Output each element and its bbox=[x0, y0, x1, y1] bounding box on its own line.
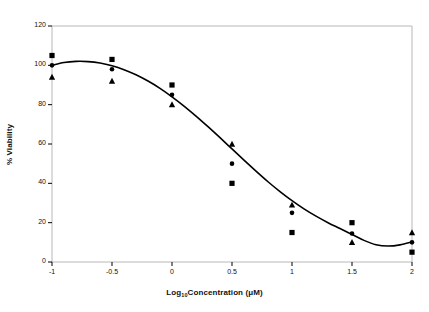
y-tick-label: 40 bbox=[24, 178, 46, 185]
y-tick-label: 20 bbox=[24, 218, 46, 225]
x-tick-label: -0.5 bbox=[99, 268, 125, 275]
marker-triangle bbox=[409, 229, 415, 235]
marker-circle bbox=[350, 231, 355, 236]
data-point-markers bbox=[49, 53, 415, 255]
marker-triangle bbox=[109, 78, 115, 84]
marker-circle bbox=[50, 63, 55, 68]
marker-square bbox=[229, 181, 234, 186]
y-axis-title: % Viability bbox=[5, 115, 14, 175]
chart-figure: 020406080100120 -1-0.500.511.52 Log10Con… bbox=[0, 0, 429, 312]
marker-circle bbox=[290, 211, 295, 216]
marker-circle bbox=[410, 240, 415, 245]
x-tick-label: 2 bbox=[399, 268, 425, 275]
y-tick-label: 0 bbox=[24, 257, 46, 264]
marker-square bbox=[349, 220, 354, 225]
dose-response-plot bbox=[0, 0, 429, 312]
marker-square bbox=[169, 82, 174, 87]
y-axis-tick-marks bbox=[48, 26, 52, 262]
x-axis-title: Log10Concentration (μM) bbox=[0, 288, 429, 298]
y-tick-label: 60 bbox=[24, 139, 46, 146]
marker-square bbox=[409, 250, 414, 255]
marker-square bbox=[109, 57, 114, 62]
y-tick-label: 80 bbox=[24, 100, 46, 107]
fitted-dose-response-curve bbox=[52, 61, 412, 246]
x-tick-label: 1.5 bbox=[339, 268, 365, 275]
x-axis-title-rest: Concentration (μM) bbox=[188, 288, 263, 297]
marker-triangle bbox=[49, 74, 55, 80]
y-tick-label: 100 bbox=[24, 60, 46, 67]
marker-circle bbox=[230, 161, 235, 166]
x-axis-title-base: Log bbox=[166, 288, 181, 297]
x-axis-tick-marks bbox=[52, 262, 412, 266]
marker-triangle bbox=[229, 141, 235, 147]
x-tick-label: 1 bbox=[279, 268, 305, 275]
x-tick-label: -1 bbox=[39, 268, 65, 275]
y-tick-label: 120 bbox=[24, 21, 46, 28]
x-tick-label: 0.5 bbox=[219, 268, 245, 275]
marker-circle bbox=[110, 67, 115, 72]
marker-triangle bbox=[169, 101, 175, 107]
marker-circle bbox=[170, 93, 175, 98]
marker-square bbox=[49, 53, 54, 58]
marker-square bbox=[289, 230, 294, 235]
x-tick-label: 0 bbox=[159, 268, 185, 275]
marker-triangle bbox=[349, 239, 355, 245]
